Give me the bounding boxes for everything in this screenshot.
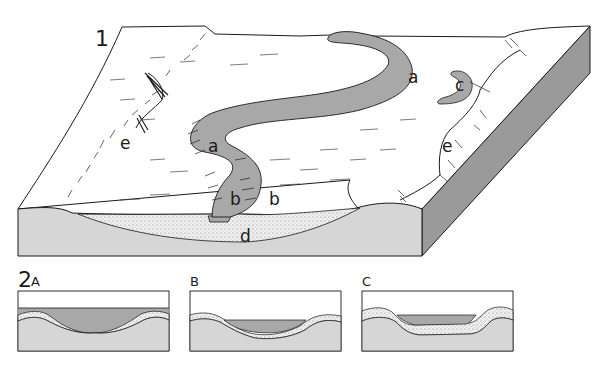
meander-diagram: 1 a a b b c d e e 2 A B C <box>0 0 604 369</box>
cross-section-b <box>190 291 341 351</box>
label-meander-a1: a <box>208 136 218 156</box>
figure-number-2: 2 <box>18 267 32 292</box>
label-bank-b-right: b <box>269 189 280 209</box>
panel-label-b: B <box>190 274 199 289</box>
label-deposit-d: d <box>240 226 251 246</box>
label-bank-b-left: b <box>230 189 241 209</box>
cross-section-c <box>362 291 513 351</box>
label-edge-e-left: e <box>120 133 130 153</box>
label-meander-a2: a <box>408 67 418 87</box>
figure-number-1: 1 <box>95 26 109 51</box>
panel-label-a: A <box>31 274 40 289</box>
label-edge-e-right: e <box>442 136 452 156</box>
label-oxbow-c: c <box>455 75 464 95</box>
cross-section-a <box>18 291 169 351</box>
panel-label-c: C <box>362 274 371 289</box>
block-diagram <box>18 26 590 256</box>
